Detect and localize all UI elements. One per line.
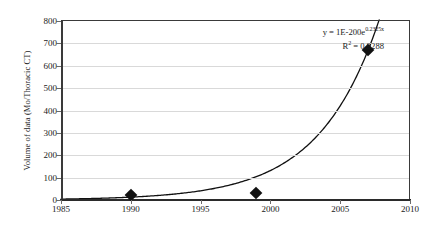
y-tick-label-700: 700 <box>24 39 57 48</box>
y-axis-tick-labels: 0100200300400500600700800 <box>24 21 57 200</box>
y-tick-mark-400 <box>56 111 61 112</box>
y-tick-label-100: 100 <box>24 173 57 182</box>
y-tick-mark-500 <box>56 88 61 89</box>
y-tick-label-500: 500 <box>24 84 57 93</box>
r-squared-superscript: 2 <box>348 40 351 46</box>
y-tick-label-400: 400 <box>24 106 57 115</box>
gridline-600 <box>61 66 410 67</box>
gridline-500 <box>61 88 410 89</box>
gridline-100 <box>61 178 410 179</box>
exponential-growth-chart: Volume of data (Mo/Thoracic CT) 01002003… <box>0 0 428 237</box>
plot-border-top <box>61 20 410 21</box>
gridline-200 <box>61 155 410 156</box>
gridline-400 <box>61 111 410 112</box>
y-tick-mark-300 <box>56 133 61 134</box>
y-tick-label-300: 300 <box>24 128 57 137</box>
y-tick-mark-100 <box>56 178 61 179</box>
x-tick-label-2000: 2000 <box>250 204 290 215</box>
equation-line-2: R2 = 0.9288 <box>276 38 384 52</box>
y-tick-mark-200 <box>56 155 61 156</box>
x-tick-label-1990: 1990 <box>111 204 151 215</box>
x-axis-tick-labels: 198519901995200020052010 <box>61 204 410 218</box>
y-tick-label-800: 800 <box>24 17 57 26</box>
x-tick-label-2010: 2010 <box>390 204 428 215</box>
y-tick-mark-600 <box>56 66 61 67</box>
equation-exponent: 0.2325x <box>365 26 384 32</box>
plot-border-right <box>409 20 410 201</box>
trendline-equation-annotation: y = 1E-200e0.2325x R2 = 0.9288 <box>276 24 384 52</box>
x-tick-label-2005: 2005 <box>320 204 360 215</box>
y-tick-mark-700 <box>56 43 61 44</box>
y-tick-label-600: 600 <box>24 61 57 70</box>
x-tick-label-1995: 1995 <box>181 204 221 215</box>
gridline-300 <box>61 133 410 134</box>
x-tick-label-1985: 1985 <box>41 204 81 215</box>
y-axis-line <box>61 20 63 201</box>
x-axis-line <box>60 199 411 201</box>
y-tick-mark-800 <box>56 21 61 22</box>
y-tick-label-200: 200 <box>24 151 57 160</box>
equation-line-1: y = 1E-200e0.2325x <box>276 24 384 38</box>
